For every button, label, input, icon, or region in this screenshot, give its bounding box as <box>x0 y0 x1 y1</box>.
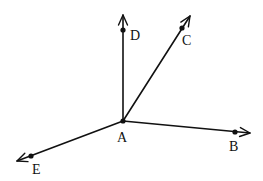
point-b <box>232 129 237 134</box>
vertex-point-a <box>120 118 125 123</box>
points-layer <box>28 25 237 158</box>
point-label-d: D <box>130 28 140 43</box>
point-d <box>120 27 125 32</box>
vertex-label-a: A <box>117 130 128 145</box>
point-label-e: E <box>32 162 41 177</box>
point-label-c: C <box>182 33 191 48</box>
point-label-b: B <box>229 139 238 154</box>
point-e <box>28 153 33 158</box>
arrowhead-icon <box>181 16 190 27</box>
geometry-diagram: A D C B E <box>0 0 263 181</box>
ray-AB <box>123 121 250 133</box>
point-c <box>179 25 184 30</box>
